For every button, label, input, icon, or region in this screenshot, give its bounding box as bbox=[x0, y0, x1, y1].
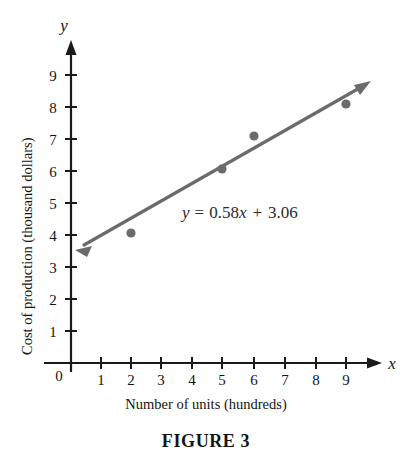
equation-plus: + bbox=[252, 203, 262, 222]
y-axis-title: Cost of production (thousand dollars) bbox=[19, 137, 36, 355]
y-tick-label: 9 bbox=[49, 68, 57, 84]
x-tick-label: 7 bbox=[281, 372, 289, 388]
y-tick-label: 7 bbox=[49, 132, 57, 148]
y-axis-tick-labels: 1 2 3 4 5 6 7 8 9 bbox=[49, 68, 57, 340]
x-axis-tick-labels: 1 2 3 4 5 6 7 8 9 bbox=[97, 372, 350, 388]
y-tick-label: 8 bbox=[49, 100, 57, 116]
data-point bbox=[249, 131, 258, 140]
x-axis-arrowhead bbox=[367, 358, 382, 369]
regression-line-arrowhead-left bbox=[75, 246, 92, 257]
origin-label: 0 bbox=[55, 368, 63, 384]
y-tick-label: 5 bbox=[49, 196, 57, 212]
x-tick-label: 9 bbox=[342, 372, 350, 388]
x-tick-label: 3 bbox=[157, 372, 165, 388]
equation-intercept: 3.06 bbox=[268, 203, 298, 222]
x-axis-variable-label: x bbox=[387, 354, 396, 373]
y-axis-arrowhead bbox=[66, 40, 77, 55]
y-tick-label: 3 bbox=[49, 260, 57, 276]
figure-caption: FIGURE 3 bbox=[162, 431, 250, 451]
x-tick-label: 2 bbox=[127, 372, 135, 388]
x-tick-label: 4 bbox=[188, 372, 196, 388]
data-point bbox=[341, 99, 350, 108]
regression-line-arrowhead-right bbox=[354, 81, 371, 95]
y-tick-label: 4 bbox=[49, 228, 57, 244]
figure-container: y x 0 1 2 3 4 5 6 7 8 9 bbox=[0, 0, 412, 463]
y-tick-label: 6 bbox=[49, 164, 57, 180]
x-axis-title: Number of units (hundreds) bbox=[125, 396, 287, 413]
scatter-plot-figure: y x 0 1 2 3 4 5 6 7 8 9 bbox=[0, 0, 412, 463]
x-tick-label: 6 bbox=[250, 372, 258, 388]
equation-slope-variable: x bbox=[238, 203, 247, 222]
y-axis-variable-label: y bbox=[58, 16, 68, 35]
regression-equation-annotation: y=0.58x+3.06 bbox=[180, 203, 298, 222]
x-tick-label: 5 bbox=[218, 372, 226, 388]
y-tick-label: 2 bbox=[49, 292, 57, 308]
y-tick-label: 1 bbox=[49, 324, 57, 340]
x-tick-label: 1 bbox=[97, 372, 105, 388]
equation-slope: 0.58 bbox=[209, 203, 239, 222]
data-point bbox=[217, 164, 226, 173]
equation-equals: = bbox=[195, 203, 205, 222]
x-tick-label: 8 bbox=[312, 372, 320, 388]
equation-lhs: y bbox=[180, 203, 190, 222]
data-point bbox=[126, 228, 135, 237]
